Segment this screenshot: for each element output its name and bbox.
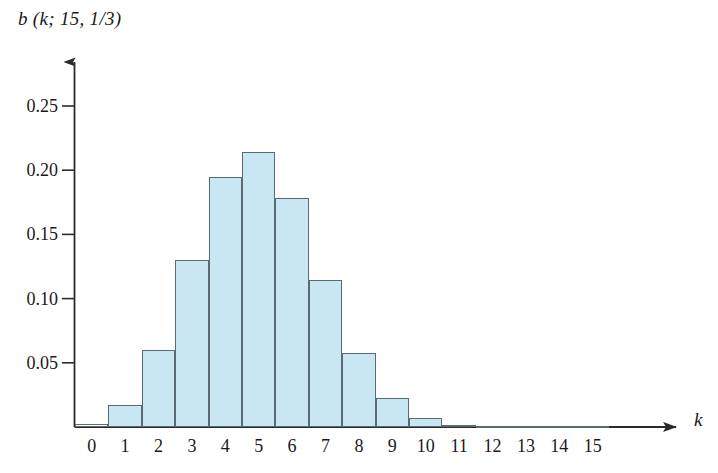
x-tick-label: 4 <box>208 437 242 455</box>
x-tick-label: 11 <box>442 437 476 455</box>
bar <box>409 418 442 427</box>
y-tick-label: 0.20 <box>0 161 58 179</box>
x-tick-label: 10 <box>409 437 443 455</box>
x-tick-label: 13 <box>509 437 543 455</box>
bar <box>275 198 308 427</box>
bar <box>376 398 409 427</box>
bar <box>175 260 208 427</box>
bar <box>543 426 576 428</box>
bar <box>209 177 242 427</box>
x-tick-label: 1 <box>108 437 142 455</box>
x-tick-label: 2 <box>142 437 176 455</box>
x-tick-label: 0 <box>75 437 109 455</box>
x-tick-label: 14 <box>542 437 576 455</box>
bar <box>342 353 375 427</box>
y-tick-label: 0.05 <box>0 354 58 372</box>
bar <box>108 405 141 427</box>
x-tick-label: 15 <box>576 437 610 455</box>
bar <box>142 350 175 427</box>
x-tick-label: 5 <box>242 437 276 455</box>
y-tick-marks <box>62 106 75 363</box>
x-tick-label: 8 <box>342 437 376 455</box>
x-tick-label: 9 <box>375 437 409 455</box>
bar <box>75 424 108 427</box>
y-tick-label: 0.15 <box>0 225 58 243</box>
y-tick-label: 0.10 <box>0 290 58 308</box>
bar <box>309 280 342 427</box>
x-tick-label: 7 <box>309 437 343 455</box>
x-tick-label: 6 <box>275 437 309 455</box>
bar <box>576 426 609 428</box>
bar <box>509 426 542 428</box>
x-tick-label: 3 <box>175 437 209 455</box>
bar <box>442 425 475 427</box>
bar <box>476 426 509 428</box>
x-tick-label: 12 <box>476 437 510 455</box>
bar <box>242 152 275 427</box>
y-tick-label: 0.25 <box>0 97 58 115</box>
binomial-pmf-chart: b (k; 15, 1/3) k 0.050.100.150.200.25 01… <box>0 0 718 473</box>
